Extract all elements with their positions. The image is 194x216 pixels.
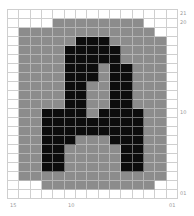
ink-cell [121, 163, 132, 172]
ink-cell [99, 118, 110, 127]
row-label-01: 01 [180, 191, 186, 196]
padding-cell [42, 64, 53, 73]
empty-cell [31, 181, 42, 190]
padding-cell [53, 55, 64, 64]
ink-cell [53, 136, 64, 145]
padding-cell [121, 172, 132, 181]
padding-cell [155, 145, 166, 154]
padding-cell [133, 100, 144, 109]
ink-cell [42, 154, 53, 163]
empty-cell [155, 181, 166, 190]
empty-cell [167, 190, 178, 199]
ink-cell [76, 37, 87, 46]
padding-cell [31, 46, 42, 55]
empty-cell [8, 154, 19, 163]
empty-cell [8, 64, 19, 73]
empty-cell [8, 163, 19, 172]
padding-cell [19, 109, 30, 118]
padding-cell [144, 181, 155, 190]
padding-cell [87, 145, 98, 154]
padding-cell [87, 91, 98, 100]
ink-cell [65, 100, 76, 109]
ink-cell [65, 109, 76, 118]
padding-cell [76, 19, 87, 28]
padding-cell [42, 73, 53, 82]
empty-cell [167, 118, 178, 127]
padding-cell [99, 136, 110, 145]
ink-cell [65, 46, 76, 55]
ink-cell [121, 136, 132, 145]
empty-cell [167, 55, 178, 64]
padding-cell [87, 100, 98, 109]
padding-cell [133, 19, 144, 28]
ink-cell [65, 73, 76, 82]
empty-cell [8, 145, 19, 154]
padding-cell [19, 118, 30, 127]
ink-cell [42, 127, 53, 136]
ink-cell [121, 145, 132, 154]
empty-cell [8, 172, 19, 181]
padding-cell [99, 73, 110, 82]
ink-cell [121, 73, 132, 82]
ink-cell [53, 109, 64, 118]
ink-cell [42, 163, 53, 172]
padding-cell [133, 172, 144, 181]
padding-cell [155, 37, 166, 46]
ink-cell [121, 109, 132, 118]
padding-cell [42, 82, 53, 91]
padding-cell [53, 37, 64, 46]
padding-cell [99, 145, 110, 154]
padding-cell [144, 82, 155, 91]
ink-cell [99, 46, 110, 55]
padding-cell [76, 172, 87, 181]
padding-cell [155, 100, 166, 109]
row-label-21: 21 [180, 11, 186, 16]
empty-cell [8, 118, 19, 127]
padding-cell [42, 37, 53, 46]
padding-cell [19, 172, 30, 181]
row-label-20: 20 [180, 20, 186, 25]
padding-cell [99, 181, 110, 190]
empty-cell [167, 163, 178, 172]
empty-cell [167, 46, 178, 55]
empty-cell [167, 28, 178, 37]
padding-cell [31, 73, 42, 82]
padding-cell [19, 82, 30, 91]
padding-cell [133, 55, 144, 64]
ink-cell [65, 64, 76, 73]
ink-cell [110, 73, 121, 82]
ink-cell [121, 82, 132, 91]
empty-cell [167, 127, 178, 136]
ink-cell [65, 82, 76, 91]
padding-cell [144, 46, 155, 55]
ink-cell [133, 109, 144, 118]
padding-cell [144, 145, 155, 154]
empty-cell [53, 10, 64, 19]
empty-cell [42, 190, 53, 199]
ink-cell [110, 64, 121, 73]
pixel-grid [7, 9, 178, 199]
ink-cell [133, 118, 144, 127]
padding-cell [31, 109, 42, 118]
padding-cell [31, 64, 42, 73]
padding-cell [155, 172, 166, 181]
empty-cell [8, 136, 19, 145]
padding-cell [144, 163, 155, 172]
ink-cell [133, 145, 144, 154]
padding-cell [133, 181, 144, 190]
ink-cell [121, 127, 132, 136]
col-label-10: 10 [68, 203, 74, 208]
padding-cell [99, 91, 110, 100]
ink-cell [53, 145, 64, 154]
ink-cell [65, 136, 76, 145]
ink-cell [76, 100, 87, 109]
ink-cell [87, 55, 98, 64]
ink-cell [99, 37, 110, 46]
ink-cell [121, 100, 132, 109]
empty-cell [42, 19, 53, 28]
padding-cell [99, 172, 110, 181]
empty-cell [144, 10, 155, 19]
padding-cell [110, 145, 121, 154]
padding-cell [65, 19, 76, 28]
padding-cell [65, 28, 76, 37]
